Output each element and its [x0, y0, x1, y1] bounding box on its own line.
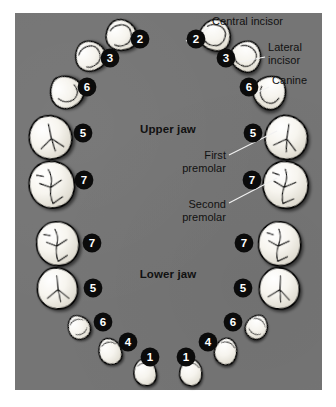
- badge-number: 2: [193, 33, 199, 45]
- badge-number: 4: [205, 336, 212, 348]
- tooth-shape-molar: [35, 220, 80, 267]
- badge-number: 3: [223, 52, 229, 64]
- eruption-badge-5: 5: [234, 279, 253, 298]
- eruption-badge-5: 5: [74, 124, 93, 143]
- eruption-badge-6: 6: [78, 78, 97, 97]
- tooth-lr-canine: [241, 311, 272, 343]
- eruption-badge-5: 5: [244, 124, 263, 143]
- badge-number: 5: [90, 282, 97, 294]
- badge-number: 7: [249, 174, 255, 186]
- callout-line: Canine: [272, 74, 307, 86]
- badge-number: 4: [125, 336, 132, 348]
- badge-number: 6: [246, 81, 252, 93]
- tooth-ur-second-premolar: [261, 159, 311, 210]
- callout-line: premolar: [182, 211, 226, 223]
- lower-jaw-label: Lower jaw: [140, 268, 197, 280]
- tooth-ll-second-molar: [35, 220, 80, 267]
- eruption-badge-2: 2: [131, 30, 150, 49]
- eruption-badge-1: 1: [177, 348, 196, 367]
- dental-arch-artwork: 23657 23657 75641 75641 Upper jaw Lower …: [0, 0, 336, 407]
- eruption-badge-7: 7: [235, 234, 254, 253]
- callout-label-first-premolar: Firstpremolar: [182, 149, 226, 174]
- tooth-ll-first-molar: [36, 266, 79, 310]
- upper-jaw-label: Upper jaw: [140, 123, 196, 135]
- badge-number: 1: [183, 351, 190, 363]
- callout-line: premolar: [182, 162, 226, 174]
- badge-number: 7: [241, 237, 247, 249]
- eruption-badge-7: 7: [83, 234, 102, 253]
- tooth-shape-premolar: [36, 266, 79, 310]
- badge-number: 6: [84, 81, 90, 93]
- badge-number: 7: [81, 174, 87, 186]
- dental-arch-figure: 23657 23657 75641 75641 Upper jaw Lower …: [0, 0, 336, 407]
- badge-number: 7: [89, 237, 95, 249]
- tooth-ul-first-premolar: [26, 112, 75, 162]
- eruption-badge-7: 7: [243, 171, 262, 190]
- callout-label-central-incisor: Central incisor: [212, 15, 283, 27]
- callout-line: Lateral: [268, 41, 302, 53]
- badge-number: 5: [80, 127, 87, 139]
- eruption-badges-lower-left: 75641: [83, 234, 160, 367]
- tooth-shape-molar: [261, 159, 311, 210]
- tooth-shape-molar: [257, 220, 302, 267]
- tooth-shape-molar: [27, 159, 77, 210]
- eruption-badge-6: 6: [224, 313, 243, 332]
- callout-line: Central incisor: [212, 15, 283, 27]
- eruption-badge-2: 2: [187, 30, 206, 49]
- tooth-shape-lowcanine: [63, 311, 94, 343]
- tooth-ul-second-premolar: [27, 159, 77, 210]
- badge-number: 5: [240, 282, 247, 294]
- callout-line: incisor: [268, 54, 300, 66]
- badge-number: 2: [137, 33, 143, 45]
- eruption-badges-lower-right: 75641: [177, 234, 254, 367]
- eruption-badge-5: 5: [84, 279, 103, 298]
- callout-line: Second: [188, 198, 226, 210]
- callout-label-second-premolar: Secondpremolar: [182, 198, 226, 223]
- tooth-lr-first-molar: [258, 267, 301, 311]
- tooth-shape-lowcanine: [241, 311, 272, 343]
- tooth-ur-first-premolar: [262, 112, 311, 162]
- badge-number: 1: [147, 351, 154, 363]
- eruption-badge-6: 6: [94, 313, 113, 332]
- tooth-lr-second-molar: [257, 220, 302, 267]
- eruption-badge-6: 6: [240, 78, 259, 97]
- tooth-ll-canine: [63, 311, 94, 343]
- tooth-shape-premolar: [258, 267, 301, 311]
- tooth-shape-premolar: [26, 112, 75, 162]
- badge-number: 6: [230, 316, 236, 328]
- eruption-badge-4: 4: [199, 333, 218, 352]
- callout-line: First: [204, 149, 226, 161]
- callout-label-lateral-incisor: Lateralincisor: [268, 41, 302, 66]
- badge-number: 5: [250, 127, 257, 139]
- eruption-badge-7: 7: [75, 171, 94, 190]
- eruption-badge-3: 3: [217, 49, 236, 68]
- callout-label-canine: Canine: [272, 74, 307, 86]
- badge-number: 6: [100, 316, 106, 328]
- eruption-badge-3: 3: [101, 49, 120, 68]
- badge-number: 3: [107, 52, 113, 64]
- tooth-shape-premolar: [262, 112, 311, 162]
- eruption-badge-1: 1: [141, 348, 160, 367]
- eruption-badge-4: 4: [119, 333, 138, 352]
